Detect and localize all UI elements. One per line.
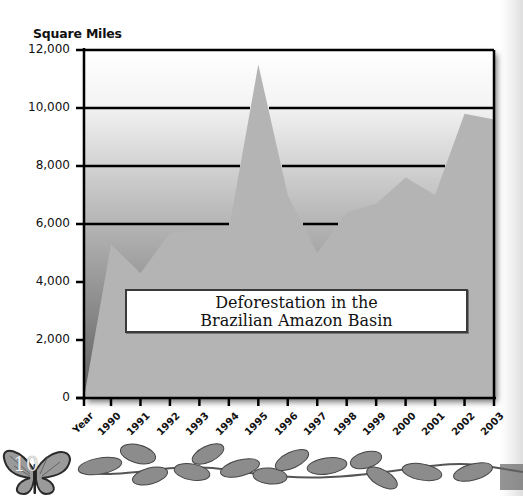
chart-title-line-1: Deforestation in the <box>127 294 466 312</box>
chart-plot <box>0 0 523 440</box>
page-number: 10 <box>13 452 38 476</box>
leaf-vine-decoration <box>0 440 523 496</box>
chart-title-line-2: Brazilian Amazon Basin <box>127 312 466 330</box>
chart-title-box: Deforestation in the Brazilian Amazon Ba… <box>125 289 468 333</box>
